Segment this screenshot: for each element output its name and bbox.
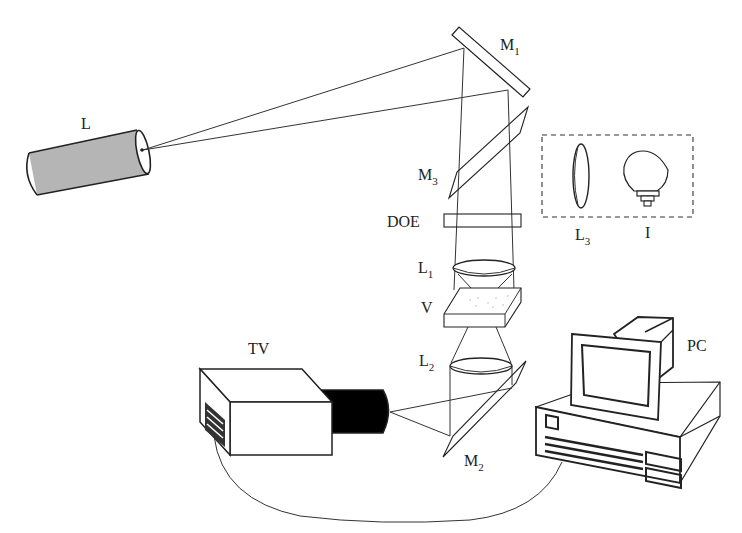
mirror-m1-label: M1 bbox=[500, 36, 520, 57]
lamp-label: I bbox=[645, 224, 650, 241]
lens-l1-label: L1 bbox=[418, 259, 433, 280]
lens-l3 bbox=[573, 144, 589, 208]
tv-camera bbox=[200, 369, 389, 455]
laser bbox=[27, 129, 154, 195]
cone-v-l2-right bbox=[496, 327, 511, 363]
doe-plate bbox=[444, 214, 521, 227]
sample-label: V bbox=[421, 299, 433, 316]
beam-laser-upper bbox=[143, 48, 464, 150]
lens-l2-label: L2 bbox=[419, 352, 434, 373]
doe-label: DOE bbox=[387, 213, 420, 230]
lens-l2 bbox=[450, 358, 512, 374]
pc-label: PC bbox=[687, 337, 707, 354]
beam-laser-lower bbox=[143, 90, 508, 150]
laser-label: L bbox=[81, 115, 91, 132]
beam-left-down bbox=[454, 48, 464, 290]
optical-setup-diagram: L M1 M3 DOE L1 V L2 bbox=[0, 0, 742, 533]
lamp-icon bbox=[624, 151, 668, 206]
mirror-m3-label: M3 bbox=[418, 166, 438, 187]
mirror-m2-label: M2 bbox=[464, 452, 484, 473]
sample-cell bbox=[444, 288, 521, 327]
lens-l1 bbox=[453, 260, 515, 276]
tv-camera-label: TV bbox=[248, 340, 270, 357]
beam-m2-camera-upper bbox=[390, 388, 512, 412]
mirror-m2 bbox=[443, 361, 526, 457]
beam-m2-camera-lower bbox=[390, 412, 450, 436]
cone-v-l2-left bbox=[451, 327, 468, 363]
lens-l3-label: L3 bbox=[575, 226, 591, 247]
illumination-box bbox=[542, 135, 693, 217]
